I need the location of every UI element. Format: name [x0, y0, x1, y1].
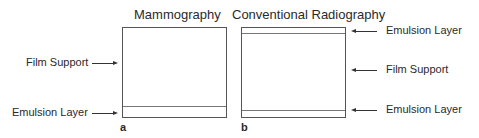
panel-a-title: Mammography: [134, 8, 221, 21]
arrow-emulsion-b-bottom: [356, 110, 377, 111]
panel-b-letter: b: [241, 122, 248, 133]
arrow-emulsion-a: [92, 113, 113, 114]
label-film-support-b: Film Support: [386, 64, 448, 75]
arrow-film-support-a: [92, 63, 113, 64]
panel-a-letter: a: [120, 122, 126, 133]
label-emulsion-layer-a: Emulsion Layer: [12, 107, 88, 118]
panel-b-title: Conventional Radiography: [232, 8, 385, 21]
emulsion-boundary-b-top: [242, 33, 345, 34]
emulsion-boundary-b-bottom: [242, 110, 345, 111]
label-emulsion-layer-b-top: Emulsion Layer: [386, 25, 462, 36]
arrow-emulsion-b-top: [356, 31, 377, 32]
label-film-support-a: Film Support: [26, 57, 88, 68]
arrow-head-icon: [113, 61, 118, 65]
arrow-film-support-b: [356, 70, 377, 71]
label-emulsion-layer-b-bottom: Emulsion Layer: [386, 104, 462, 115]
arrow-head-icon: [113, 111, 118, 115]
mammography-film-box: [122, 27, 227, 118]
emulsion-boundary-a: [123, 106, 226, 107]
conventional-film-box: [241, 27, 346, 118]
